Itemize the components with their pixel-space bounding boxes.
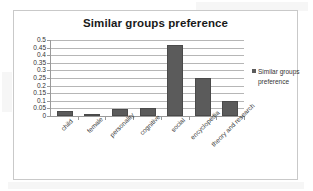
bar-encyclopedia[interactable] (195, 78, 211, 116)
y-tick-mark (47, 86, 50, 87)
scan-artifact-left (2, 72, 12, 112)
y-axis-tick-labels: 0.5 0.45 0.4 0.35 0.3 0.25 0.2 0.15 0.1 … (14, 40, 46, 116)
y-tick-label: 0.35 (33, 60, 46, 67)
y-tick-mark (47, 101, 50, 102)
y-tick-mark (47, 93, 50, 94)
y-tick-mark (47, 48, 50, 49)
plot-area (50, 40, 244, 116)
y-tick-mark (47, 108, 50, 109)
y-tick-label: 0.25 (33, 75, 46, 82)
y-tick-mark (47, 78, 50, 79)
x-axis-tick-labels: child female personality cognitive socia… (51, 121, 245, 181)
bar-slot (51, 40, 79, 116)
x-label-cell: child (51, 121, 79, 181)
x-tick-mark (51, 116, 79, 120)
bar-series (51, 40, 244, 116)
y-tick-label: 0.5 (37, 37, 46, 44)
y-tick-mark (47, 55, 50, 56)
bar-slot (79, 40, 107, 116)
y-tick-label: 0.05 (33, 105, 46, 112)
y-tick-label: 0 (42, 113, 46, 120)
x-label-cell: encyclopedia (190, 121, 218, 181)
bar-social[interactable] (167, 45, 183, 116)
y-tick-mark (47, 40, 50, 41)
x-label-cell: social (162, 121, 190, 181)
y-tick-label: 0.4 (37, 52, 46, 59)
bar-theory-and-research[interactable] (222, 101, 238, 116)
legend-swatch-icon (252, 69, 256, 73)
y-tick-label: 0.15 (33, 90, 46, 97)
y-tick-mark (47, 63, 50, 64)
y-tick-mark (47, 70, 50, 71)
bar-slot (216, 40, 244, 116)
x-label-cell: cognitive (134, 121, 162, 181)
chart-container: Similar groups preference 0.5 0.45 0.4 0… (13, 10, 298, 180)
y-tick-label: 0.45 (33, 44, 46, 51)
bar-slot (134, 40, 162, 116)
legend-item[interactable]: Similar groups preference (252, 67, 308, 87)
x-label-cell: personality (106, 121, 134, 181)
bar-slot (161, 40, 189, 116)
x-label-cell: theory and research (217, 121, 245, 181)
legend-item-label: Similar groups preference (258, 67, 308, 87)
bar-slot (106, 40, 134, 116)
x-label-cell: female (79, 121, 107, 181)
scan-artifact-bottom (8, 182, 304, 189)
y-tick-label: 0.3 (37, 67, 46, 74)
x-tick-label-child: child (60, 118, 74, 132)
chart-legend: Similar groups preference (252, 67, 308, 87)
y-tick-label: 0.1 (37, 98, 46, 105)
chart-title: Similar groups preference (14, 17, 297, 29)
y-tick-label: 0.2 (37, 82, 46, 89)
bar-slot (189, 40, 217, 116)
